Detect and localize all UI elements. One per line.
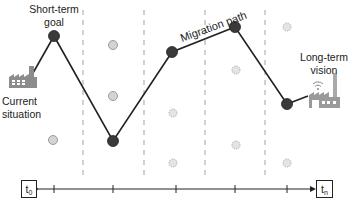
path-nodes — [49, 22, 293, 147]
current-line1: Current — [2, 95, 48, 108]
short-term-goal-label: Short-term goal — [28, 3, 80, 29]
current-factory-icon — [9, 66, 37, 88]
current-line2: situation — [2, 108, 48, 121]
short-term-line1: Short-term — [28, 3, 80, 16]
t0-sub: 0 — [29, 189, 33, 196]
long-term-line1: Long-term — [297, 51, 351, 64]
long-term-vision-label: Long-term vision — [297, 51, 351, 77]
timeline-axis — [36, 185, 312, 193]
wifi-icon — [313, 82, 323, 87]
future-nodes — [169, 23, 291, 167]
migration-path-line — [33, 27, 308, 141]
timeline-end-box: tn — [316, 180, 333, 198]
short-term-line2: goal — [28, 16, 80, 29]
current-situation-label: Current situation — [2, 95, 48, 121]
timeline-start-box: t0 — [21, 180, 37, 198]
smart-factory-icon — [309, 73, 340, 108]
tn-sub: n — [324, 189, 328, 196]
migration-diagram: Migration path — [0, 0, 353, 208]
long-term-line2: vision — [297, 64, 351, 77]
